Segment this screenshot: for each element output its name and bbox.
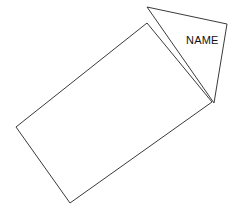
triangle-shape[interactable] xyxy=(147,7,227,103)
diagram-canvas: NAME xyxy=(0,0,235,213)
triangle-name-label: NAME xyxy=(186,34,219,46)
rectangle-shape[interactable] xyxy=(16,23,212,203)
shape-drawing: NAME xyxy=(0,0,235,213)
